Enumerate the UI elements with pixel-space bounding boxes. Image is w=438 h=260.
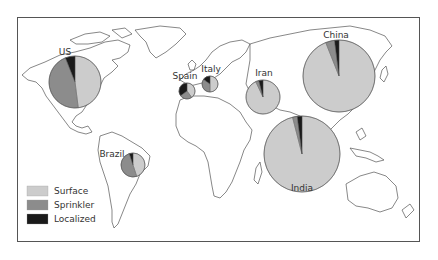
pie-slice-surface <box>210 76 218 92</box>
pie-iran <box>246 80 280 114</box>
legend-swatch-sprinkler <box>27 200 48 210</box>
pie-china <box>303 40 375 112</box>
japan-outline <box>380 66 388 82</box>
country-label-italy: Italy <box>201 64 221 74</box>
country-label-india: India <box>291 183 313 193</box>
pie-italy <box>202 76 218 92</box>
pie-spain <box>179 83 195 99</box>
pie-india <box>264 116 340 192</box>
southeast-asia-islands-outline <box>350 128 384 162</box>
pie-us <box>49 56 101 108</box>
new-zealand-outline <box>402 204 414 218</box>
legend-swatch-localized <box>27 214 48 224</box>
country-pies <box>49 40 375 192</box>
legend-label-surface: Surface <box>54 186 89 196</box>
country-label-china: China <box>323 30 349 40</box>
country-label-us: US <box>59 47 72 57</box>
legend: Surface Sprinkler Localized <box>27 186 96 224</box>
legend-label-sprinkler: Sprinkler <box>54 200 95 210</box>
pie-slice-surface <box>75 56 101 108</box>
legend-label-localized: Localized <box>54 214 96 224</box>
pie-brazil <box>121 153 145 177</box>
country-label-brazil: Brazil <box>99 149 124 159</box>
south-america-outline <box>98 132 150 228</box>
country-label-iran: Iran <box>255 68 273 78</box>
legend-swatch-surface <box>27 186 48 196</box>
australia-outline <box>346 172 398 212</box>
greenland-outline <box>135 26 186 58</box>
country-label-spain: Spain <box>172 71 197 81</box>
uk-outline <box>188 60 196 70</box>
world-map: USSpainItalyIranChinaIndiaBrazil Surface… <box>0 0 438 260</box>
madagascar-outline <box>254 162 262 184</box>
africa-outline <box>176 96 252 198</box>
